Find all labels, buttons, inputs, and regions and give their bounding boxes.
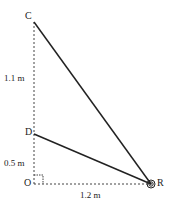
diagram — [0, 0, 172, 204]
measure-1-1m: 1.1 m — [4, 74, 25, 83]
right-angle-marker — [34, 175, 43, 184]
measure-1-2m: 1.2 m — [80, 191, 101, 200]
label-o: O — [24, 178, 31, 188]
label-c: C — [25, 11, 32, 21]
label-r: R — [157, 178, 164, 188]
measure-0-5m: 0.5 m — [4, 159, 25, 168]
point-r-dot — [150, 183, 152, 185]
label-d: D — [25, 127, 32, 137]
